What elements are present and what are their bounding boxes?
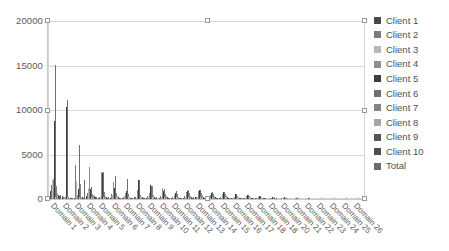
x-axis-tick	[188, 197, 189, 200]
legend-swatch-icon	[374, 31, 381, 38]
y-axis-tick-label: 20000	[16, 16, 43, 26]
x-axis-tick	[200, 197, 201, 200]
legend-item-client-9[interactable]: Client 9	[374, 130, 449, 145]
bar-group[interactable]	[182, 22, 194, 199]
resize-handle[interactable]	[45, 196, 50, 201]
bar-group[interactable]	[97, 22, 109, 199]
resize-handle[interactable]	[45, 108, 50, 113]
plot-area[interactable]	[49, 22, 364, 199]
legend-swatch-icon	[374, 46, 381, 53]
legend-item-client-4[interactable]: Client 4	[374, 57, 449, 72]
legend-item-label: Total	[386, 161, 406, 171]
legend-item-client-8[interactable]: Client 8	[374, 115, 449, 130]
legend-swatch-icon	[374, 61, 381, 68]
bar-group[interactable]	[110, 22, 122, 199]
legend-item-client-3[interactable]: Client 3	[374, 42, 449, 57]
bar-group[interactable]	[61, 22, 73, 199]
x-axis-tick	[116, 197, 117, 200]
x-axis-tick	[285, 197, 286, 200]
legend-item-client-6[interactable]: Client 6	[374, 86, 449, 101]
legend-item-client-7[interactable]: Client 7	[374, 101, 449, 116]
bar-group[interactable]	[303, 22, 315, 199]
legend-swatch-icon	[374, 148, 381, 155]
resize-handle[interactable]	[362, 18, 367, 23]
legend-swatch-icon	[374, 75, 381, 82]
x-axis-tick	[67, 197, 68, 200]
resize-handle[interactable]	[45, 18, 50, 23]
x-axis-tick	[128, 197, 129, 200]
resize-handle[interactable]	[362, 108, 367, 113]
bar-group[interactable]	[85, 22, 97, 199]
chart-legend[interactable]: Client 1Client 2Client 3Client 4Client 5…	[374, 13, 449, 174]
x-axis-tick	[79, 197, 80, 200]
y-axis-tick-label: 0	[38, 194, 43, 204]
legend-item-label: Client 1	[386, 16, 418, 26]
bar-group[interactable]	[340, 22, 352, 199]
bar-group[interactable]	[243, 22, 255, 199]
x-axis-tick	[55, 197, 56, 200]
x-axis-tick	[273, 197, 274, 200]
bar-group[interactable]	[194, 22, 206, 199]
x-axis-tick	[321, 197, 322, 200]
bar-group[interactable]	[146, 22, 158, 199]
legend-item-label: Client 6	[386, 89, 418, 99]
y-axis-tick-label: 15000	[16, 61, 43, 71]
legend-swatch-icon	[374, 134, 381, 141]
legend-item-label: Client 7	[386, 103, 418, 113]
bar-group[interactable]	[231, 22, 243, 199]
resize-handle[interactable]	[205, 18, 210, 23]
legend-item-label: Client 4	[386, 59, 418, 69]
x-axis-tick	[225, 197, 226, 200]
bar-group[interactable]	[219, 22, 231, 199]
legend-item-label: Client 8	[386, 118, 418, 128]
legend-swatch-icon	[374, 90, 381, 97]
bar-group[interactable]	[267, 22, 279, 199]
bar-group[interactable]	[206, 22, 218, 199]
legend-item-label: Client 5	[386, 74, 418, 84]
x-axis-tick	[261, 197, 262, 200]
x-axis-tick	[346, 197, 347, 200]
y-axis: 05000100001500020000	[0, 0, 48, 200]
x-axis-tick	[249, 197, 250, 200]
bar-group[interactable]	[49, 22, 61, 199]
x-axis-tick	[164, 197, 165, 200]
x-axis-tick	[103, 197, 104, 200]
x-axis-tick	[309, 197, 310, 200]
x-axis-tick	[297, 197, 298, 200]
legend-item-client-10[interactable]: Client 10	[374, 144, 449, 159]
legend-swatch-icon	[374, 17, 381, 24]
legend-item-total[interactable]: Total	[374, 159, 449, 174]
bar-group[interactable]	[291, 22, 303, 199]
bar-group[interactable]	[328, 22, 340, 199]
bar-group[interactable]	[73, 22, 85, 199]
legend-item-client-5[interactable]: Client 5	[374, 71, 449, 86]
resize-handle[interactable]	[205, 196, 210, 201]
bar-group[interactable]	[134, 22, 146, 199]
x-axis-tick	[91, 197, 92, 200]
legend-item-label: Client 3	[386, 45, 418, 55]
y-axis-tick-label: 5000	[21, 150, 43, 160]
bar-group[interactable]	[122, 22, 134, 199]
x-axis-tick	[358, 197, 359, 200]
x-axis-tick	[140, 197, 141, 200]
bar-group[interactable]	[315, 22, 327, 199]
x-axis-labels: Domain 1Domain 2Domain 3Domain 4Domain 5…	[49, 200, 364, 251]
resize-handle[interactable]	[362, 196, 367, 201]
bar-group[interactable]	[170, 22, 182, 199]
legend-item-label: Client 2	[386, 30, 418, 40]
legend-swatch-icon	[374, 163, 381, 170]
bar[interactable]	[67, 100, 68, 199]
legend-item-client-1[interactable]: Client 1	[374, 13, 449, 28]
legend-swatch-icon	[374, 119, 381, 126]
bar[interactable]	[55, 65, 56, 199]
legend-item-label: Client 9	[386, 132, 418, 142]
legend-swatch-icon	[374, 104, 381, 111]
chart-container[interactable]: 05000100001500020000 Domain 1Domain 2Dom…	[0, 0, 449, 251]
x-axis-tick	[176, 197, 177, 200]
bar-group[interactable]	[158, 22, 170, 199]
legend-item-client-2[interactable]: Client 2	[374, 28, 449, 43]
bar-group[interactable]	[255, 22, 267, 199]
y-axis-tick-label: 10000	[16, 105, 43, 115]
x-axis-tick	[237, 197, 238, 200]
bar-group[interactable]	[279, 22, 291, 199]
